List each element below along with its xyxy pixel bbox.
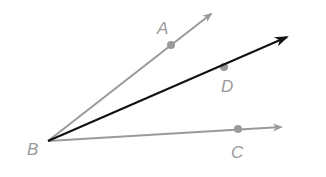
point-a	[167, 41, 175, 49]
label-b: B	[27, 140, 38, 159]
ray-bc	[48, 127, 281, 141]
label-c: C	[231, 143, 244, 162]
angle-diagram: A D B C	[0, 0, 326, 177]
label-a: A	[156, 19, 168, 38]
ray-bd	[48, 37, 287, 141]
ray-ba	[48, 14, 211, 141]
label-d: D	[221, 77, 233, 96]
point-c	[234, 125, 242, 133]
